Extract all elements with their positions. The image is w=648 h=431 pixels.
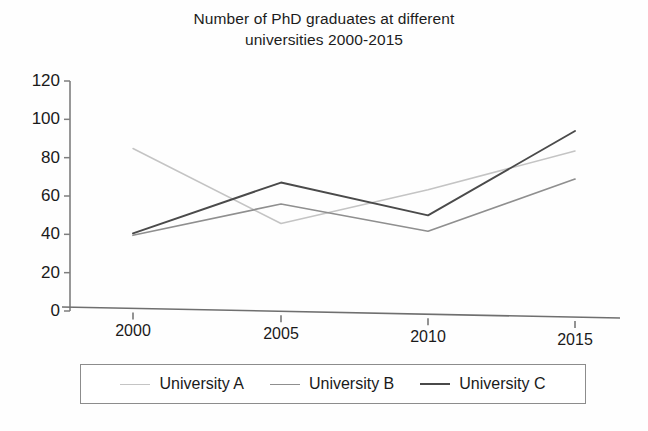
x-axis-tick-label: 2010 [393,328,463,346]
y-axis-tick-label: 40 [14,224,60,244]
legend-label: University C [459,375,545,393]
legend-item: University B [270,375,394,393]
y-axis-tick-label: 60 [14,186,60,206]
chart-legend: University AUniversity BUniversity C [80,364,586,404]
y-axis-labels: 020406080100120 [10,0,60,431]
legend-label: University B [309,375,394,393]
x-axis-ticks [133,312,575,328]
x-axis-tick-label: 2015 [540,331,610,349]
chart-page: Number of PhD graduates at different uni… [0,0,648,431]
legend-item: University A [120,375,243,393]
y-axis-tick-label: 80 [14,148,60,168]
x-axis-line [62,307,620,318]
y-axis-tick-label: 0 [14,301,60,321]
series-line [133,148,575,223]
legend-item: University C [420,375,545,393]
y-axis-tick-label: 120 [14,71,60,91]
chart-axes [62,81,620,328]
x-axis-tick-label: 2000 [98,322,168,340]
y-axis-tick-label: 20 [14,263,60,283]
legend-label: University A [159,375,243,393]
legend-line-swatch [120,384,150,385]
legend-line-swatch [420,383,450,385]
y-axis-tick-label: 100 [14,109,60,129]
y-axis-ticks [64,81,70,311]
x-axis-tick-label: 2005 [246,325,316,343]
chart-series-layer [133,131,575,235]
legend-line-swatch [270,384,300,385]
